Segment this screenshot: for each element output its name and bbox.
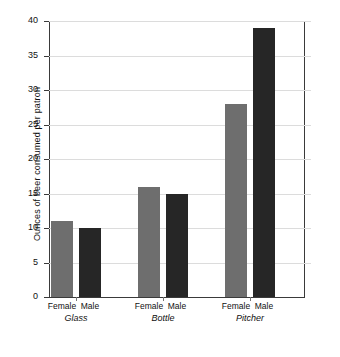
bar-bottle-female xyxy=(138,187,160,297)
bar-bottle-male xyxy=(166,194,188,298)
bars-layer xyxy=(49,21,305,297)
y-tick-label: 25 xyxy=(14,120,38,129)
x-sub-label-bottle-male: Male xyxy=(155,301,199,311)
x-tick-mark xyxy=(163,297,164,301)
bar-pitcher-female xyxy=(225,104,247,297)
x-group-label-glass: Glass xyxy=(36,313,116,323)
y-tick-label: 30 xyxy=(14,85,38,94)
x-tick-mark xyxy=(250,297,251,301)
x-sub-label-pitcher-male: Male xyxy=(242,301,286,311)
y-tick-label: 40 xyxy=(14,16,38,25)
y-tick-label: 20 xyxy=(14,154,38,163)
bar-glass-male xyxy=(79,228,101,297)
y-tick-label: 0 xyxy=(14,292,38,301)
x-group-label-bottle: Bottle xyxy=(123,313,203,323)
bar-pitcher-male xyxy=(253,28,275,297)
bar-chart: Ounces of beer consumed per patron 05101… xyxy=(0,0,340,357)
y-tick-label: 10 xyxy=(14,223,38,232)
x-group-label-pitcher: Pitcher xyxy=(210,313,290,323)
y-tick-label: 15 xyxy=(14,189,38,198)
x-axis-line xyxy=(49,297,305,298)
x-sub-label-glass-male: Male xyxy=(68,301,112,311)
y-tick-label: 5 xyxy=(14,258,38,267)
x-tick-mark xyxy=(76,297,77,301)
y-tick-mark xyxy=(44,297,49,298)
bar-glass-female xyxy=(51,221,73,297)
y-tick-label: 35 xyxy=(14,51,38,60)
